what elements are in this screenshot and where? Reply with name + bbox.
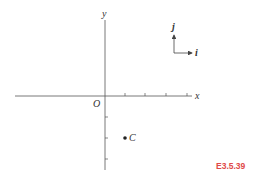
x-ticks [125, 93, 187, 96]
y-ticks [105, 117, 108, 159]
x-axis-label: x [194, 90, 200, 101]
point-c-marker [123, 136, 127, 140]
y-axis-label: y [101, 8, 107, 19]
point-c-label: C [129, 132, 136, 143]
i-vector-label: i [195, 47, 198, 58]
coordinate-diagram: y x O C j i E3.5.39 [0, 0, 256, 184]
figure-reference-label: E3.5.39 [216, 161, 246, 171]
j-vector-label: j [170, 21, 175, 32]
origin-label: O [93, 98, 100, 109]
